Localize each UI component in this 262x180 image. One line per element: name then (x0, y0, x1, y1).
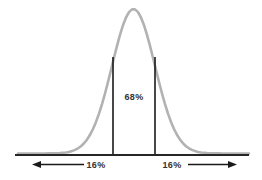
right-tail-label: 16% (162, 160, 181, 170)
right-arrowhead-icon (228, 161, 237, 168)
bell-curve (18, 9, 249, 153)
normal-distribution-diagram: 68% 16% 16% (0, 0, 262, 180)
left-arrowhead-icon (32, 161, 41, 168)
diagram-canvas: 68% 16% 16% (0, 0, 262, 180)
center-region-label: 68% (124, 92, 143, 102)
left-tail-label: 16% (86, 160, 105, 170)
